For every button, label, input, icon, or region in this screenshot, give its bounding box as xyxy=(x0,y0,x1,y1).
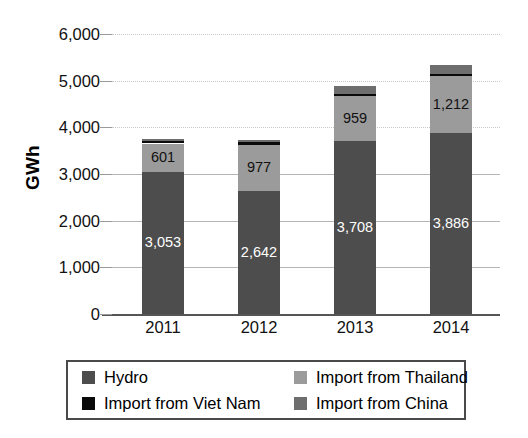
bar-segment-china[interactable] xyxy=(334,86,376,94)
legend-swatch-vietnam-icon xyxy=(82,397,95,410)
legend-item-hydro[interactable]: Hydro xyxy=(68,368,290,387)
legend-item-vietnam[interactable]: Import from Viet Nam xyxy=(68,394,290,413)
legend-item-thailand[interactable]: Import from Thailand xyxy=(290,368,468,387)
bar-value-label: 601 xyxy=(142,150,184,165)
y-axis-tick-label: 0 xyxy=(38,306,100,323)
y-axis-tick xyxy=(100,221,112,222)
legend-label-thailand: Import from Thailand xyxy=(316,368,468,387)
y-axis-tick xyxy=(100,127,112,128)
y-axis-tick xyxy=(100,314,112,315)
y-axis-tick-label: 5,000 xyxy=(38,73,100,90)
bar-value-label: 959 xyxy=(334,111,376,126)
bar-value-label: 977 xyxy=(238,160,280,175)
bar-value-label: 1,212 xyxy=(430,97,472,112)
x-axis-tick-label-2014: 2014 xyxy=(411,318,491,337)
y-axis-tick-label: 6,000 xyxy=(38,26,100,43)
plot-area: 3,0536012,6429773,7089593,8861,212 xyxy=(112,34,500,314)
legend-label-hydro: Hydro xyxy=(104,368,148,387)
x-axis-line xyxy=(102,314,500,316)
y-axis-tick-label: 1,000 xyxy=(38,259,100,276)
bar-segment-vietnam[interactable] xyxy=(142,141,184,144)
y-axis-tick-label: 4,000 xyxy=(38,119,100,136)
y-axis-tick xyxy=(100,174,112,175)
bar-value-label: 3,886 xyxy=(430,216,472,231)
x-axis-tick-label-2013: 2013 xyxy=(315,318,395,337)
bar-segment-vietnam[interactable] xyxy=(238,142,280,145)
legend-label-china: Import from China xyxy=(316,394,448,413)
bar-2011[interactable]: 3,053601 xyxy=(142,34,184,314)
bar-segment-vietnam[interactable] xyxy=(430,74,472,77)
y-axis-tick-label: 3,000 xyxy=(38,166,100,183)
bar-2012[interactable]: 2,642977 xyxy=(238,34,280,314)
y-axis-tick xyxy=(100,34,112,35)
legend-swatch-thailand-icon xyxy=(294,371,307,384)
bar-value-label: 3,708 xyxy=(334,220,376,235)
legend-swatch-china-icon xyxy=(294,397,307,410)
bar-segment-china[interactable] xyxy=(238,140,280,143)
y-axis-tick xyxy=(100,267,112,268)
bar-2014[interactable]: 3,8861,212 xyxy=(430,34,472,314)
x-axis-tick-label-2011: 2011 xyxy=(123,318,203,337)
legend-swatch-hydro-icon xyxy=(82,371,95,384)
chart-legend: Hydro Import from Thailand Import from V… xyxy=(66,360,466,420)
bar-segment-china[interactable] xyxy=(142,139,184,141)
x-axis-tick-label-2012: 2012 xyxy=(219,318,299,337)
bar-segment-vietnam[interactable] xyxy=(334,94,376,97)
bar-segment-china[interactable] xyxy=(430,65,472,73)
legend-label-vietnam: Import from Viet Nam xyxy=(104,394,260,413)
bar-2013[interactable]: 3,708959 xyxy=(334,34,376,314)
stacked-bar-chart: GWh 3,0536012,6429773,7089593,8861,212 6… xyxy=(0,0,528,438)
y-axis-tick xyxy=(100,81,112,82)
bar-value-label: 3,053 xyxy=(142,235,184,250)
legend-item-china[interactable]: Import from China xyxy=(290,394,468,413)
y-axis-tick-label: 2,000 xyxy=(38,213,100,230)
bar-value-label: 2,642 xyxy=(238,245,280,260)
